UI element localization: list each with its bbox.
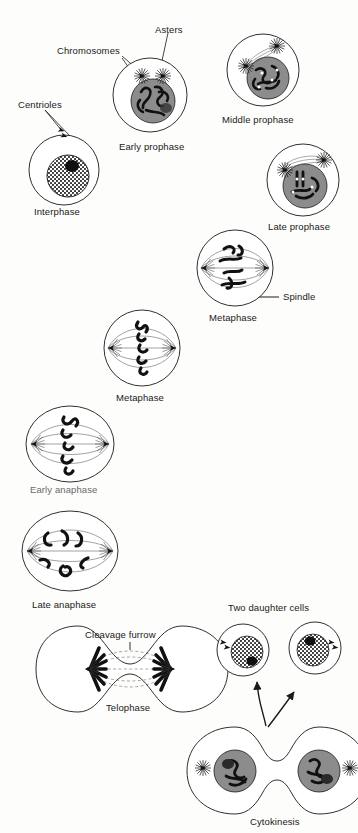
cell-daughter-left: [217, 624, 269, 676]
callout-two-daughter-cells: Two daughter cells: [228, 602, 309, 613]
stage-label-middle-prophase: Middle prophase: [222, 114, 294, 125]
diagram-canvas: [0, 0, 358, 833]
cell-metaphase-lower: [104, 310, 180, 386]
cell-late-anaphase: [22, 511, 118, 591]
cell-middle-prophase: [227, 34, 299, 106]
cell-early-anaphase: [26, 406, 114, 482]
stage-label-early-anaphase: Early anaphase: [30, 484, 97, 495]
stage-label-late-anaphase: Late anaphase: [32, 599, 96, 610]
callout-spindle: Spindle: [283, 291, 315, 302]
callout-asters: Asters: [155, 24, 183, 35]
stage-label-late-prophase: Late prophase: [268, 221, 330, 232]
callout-centrioles: Centrioles: [18, 99, 62, 110]
stage-label-metaphase-upper: Metaphase: [209, 312, 257, 323]
cell-cytokinesis: [187, 727, 358, 814]
stage-label-cytokinesis: Cytokinesis: [250, 816, 300, 827]
cell-metaphase-upper: [197, 230, 273, 306]
cell-daughter-right: [289, 622, 341, 674]
cell-early-prophase: [113, 58, 187, 132]
cell-late-prophase: [267, 144, 339, 216]
division-arrows: [257, 682, 294, 727]
stage-label-telophase: Telophase: [106, 702, 150, 713]
stage-label-metaphase-lower: Metaphase: [116, 392, 164, 403]
stage-label-early-prophase: Early prophase: [119, 141, 184, 152]
stage-label-interphase: Interphase: [34, 206, 80, 217]
mitosis-diagram: Asters Chromosomes Centrioles Spindle Cl…: [0, 0, 358, 833]
callout-cleavage-furrow: Cleavage furrow: [85, 629, 156, 640]
cell-interphase: [29, 127, 99, 205]
callout-chromosomes: Chromosomes: [57, 45, 120, 56]
